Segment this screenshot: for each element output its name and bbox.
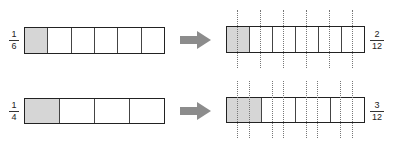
strip-twelfths <box>226 97 365 123</box>
right-arrow-icon <box>180 102 211 120</box>
fraction-left: 1 6 <box>9 30 19 51</box>
dotted-divider <box>272 81 273 138</box>
dotted-divider <box>340 81 341 138</box>
dotted-divider <box>317 81 318 138</box>
cell-shaded <box>227 98 262 122</box>
strip-quarters <box>24 98 165 124</box>
cell <box>296 27 319 52</box>
cell-shaded <box>227 27 250 52</box>
numerator: 2 <box>370 30 384 39</box>
numerator: 1 <box>9 101 19 110</box>
cell <box>296 98 331 122</box>
dotted-divider <box>306 81 307 138</box>
cell-shaded <box>25 99 60 123</box>
cell <box>342 27 364 52</box>
numerator: 1 <box>9 30 19 39</box>
cell <box>331 98 365 122</box>
strip-sixths <box>24 27 165 54</box>
numerator: 3 <box>370 101 384 110</box>
dotted-divider <box>306 10 307 68</box>
right-arrow-icon <box>180 31 211 49</box>
cell <box>142 28 164 53</box>
cell <box>60 99 95 123</box>
dotted-divider <box>237 81 238 138</box>
cell <box>319 27 342 52</box>
cell <box>250 27 273 52</box>
cell <box>48 28 71 53</box>
dotted-divider <box>283 10 284 68</box>
fraction-left: 1 4 <box>9 101 19 122</box>
cell <box>262 98 297 122</box>
cell <box>118 28 141 53</box>
denominator: 12 <box>370 42 384 51</box>
strip-twelfths <box>226 26 365 53</box>
dotted-divider <box>283 81 284 138</box>
dotted-divider <box>352 81 353 138</box>
cell <box>72 28 95 53</box>
row-one-sixth: 1 6 2 12 <box>0 0 395 70</box>
cell <box>130 99 164 123</box>
fraction-right: 3 12 <box>370 101 384 122</box>
denominator: 6 <box>9 42 19 51</box>
denominator: 4 <box>9 113 19 122</box>
fraction-right: 2 12 <box>370 30 384 51</box>
dotted-divider <box>260 10 261 68</box>
cell <box>273 27 296 52</box>
dotted-divider <box>352 10 353 68</box>
dotted-divider <box>249 81 250 138</box>
cell <box>95 99 130 123</box>
dotted-divider <box>329 10 330 68</box>
denominator: 12 <box>370 113 384 122</box>
cell <box>95 28 118 53</box>
row-one-quarter: 1 4 3 12 <box>0 70 395 140</box>
dotted-divider <box>237 10 238 68</box>
cell-shaded <box>25 28 48 53</box>
